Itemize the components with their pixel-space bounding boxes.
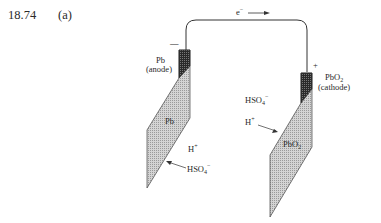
external-wire [186, 20, 307, 72]
electron-label: e− [236, 6, 244, 17]
cathode-role-label: (cathode) [318, 82, 350, 92]
arrow-head-icon [264, 11, 270, 15]
anode-role-label: (anode) [146, 64, 172, 74]
cathode-ion-arrow [258, 125, 276, 131]
anode-sign: — [169, 38, 179, 48]
anode-ion-hso4: HSO4− [187, 162, 211, 175]
anode-ion-h: H+ [188, 143, 198, 154]
anode-plate-label: Pb [165, 116, 174, 126]
cathode-ion-hso4: HSO4− [245, 93, 269, 106]
lead-acid-cell-diagram: e− — Pb (anode) Pb H+ HSO4− + PbO2 (cath… [0, 0, 381, 223]
cathode-ion-h: H+ [245, 116, 255, 127]
cathode-sign: + [313, 60, 318, 70]
